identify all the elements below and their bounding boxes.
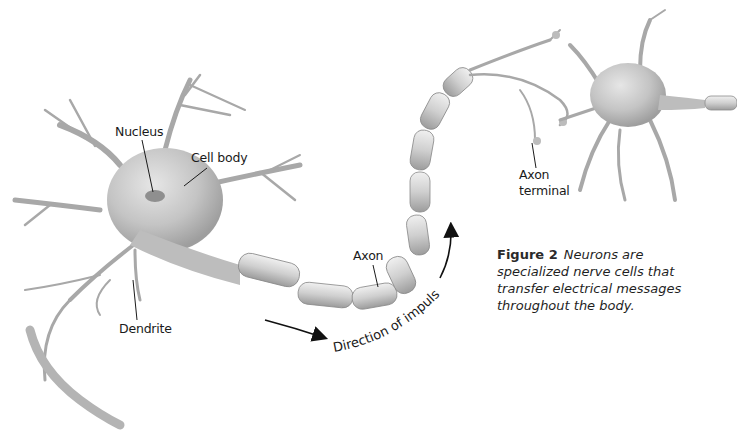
axon-terminal-label-line2: terminal: [519, 183, 570, 198]
axon-myelin: [236, 64, 477, 311]
caption-line-2: specialized nerve cells that: [497, 264, 674, 279]
nucleus: [145, 190, 165, 202]
figure-number: Figure 2: [497, 247, 558, 262]
axon-terminal-label-line1: Axon: [519, 167, 549, 182]
target-cell-body: [590, 63, 666, 127]
caption-line-4: throughout the body.: [497, 298, 635, 313]
nucleus-label: Nucleus: [115, 124, 163, 139]
axon-label: Axon: [353, 248, 383, 263]
axon-terminals: [470, 30, 568, 140]
direction-arrow-right-icon: [265, 320, 322, 337]
cell-body-label: Cell body: [191, 150, 247, 165]
caption-line-3: transfer electrical messages: [497, 281, 681, 296]
neuron-diagram: Direction of impulse: [0, 0, 737, 442]
direction-arrow-up-icon: [440, 228, 451, 278]
caption-line-1: Neurons are: [564, 247, 644, 262]
figure-caption: Figure 2Neurons are specialized nerve ce…: [497, 246, 732, 314]
dendrite-label: Dendrite: [119, 321, 172, 336]
